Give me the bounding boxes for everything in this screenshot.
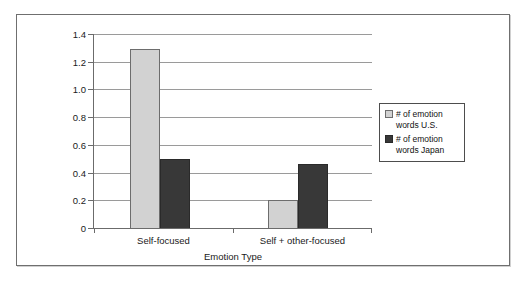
legend-label-us-line2: words U.S. (396, 120, 438, 130)
legend-item-japan: # of emotion words Japan (385, 134, 460, 155)
legend-label-japan: # of emotion words Japan (396, 134, 444, 155)
y-tick-1.4 (88, 34, 94, 35)
y-tick-label-0.8: 0.8 (46, 113, 86, 123)
x-axis-title: Emotion Type (94, 252, 372, 262)
plot-area (94, 34, 372, 228)
y-tick-0.4 (88, 173, 94, 174)
y-tick-label-1.0: 1.0 (46, 85, 86, 95)
bar-self-focused-us (130, 49, 160, 229)
chart-legend: # of emotion words U.S. # of emotion wor… (379, 103, 465, 162)
legend-item-us: # of emotion words U.S. (385, 109, 460, 130)
gridline-1.4 (94, 34, 372, 35)
y-tick-1.0 (88, 89, 94, 90)
legend-swatch-japan-icon (385, 135, 393, 143)
y-tick-0.6 (88, 145, 94, 146)
y-tick-label-1.4: 1.4 (46, 30, 86, 40)
y-tick-label-0: 0 (46, 224, 86, 234)
x-tick-end (371, 228, 372, 233)
bar-self-other-focused-us (268, 200, 298, 229)
y-tick-label-0.4: 0.4 (46, 169, 86, 179)
bar-self-focused-japan (160, 159, 190, 229)
legend-swatch-us-icon (385, 110, 393, 118)
y-tick-label-0.6: 0.6 (46, 141, 86, 151)
bar-self-other-focused-japan (298, 164, 328, 229)
x-tick-middle (233, 228, 234, 233)
y-tick-0.8 (88, 117, 94, 118)
y-tick-label-1.2: 1.2 (46, 58, 86, 68)
x-tick-start (94, 228, 95, 233)
y-axis-tick-labels: 1.4 1.2 1.0 0.8 0.6 0.4 0.2 0 (42, 0, 86, 284)
legend-label-us: # of emotion words U.S. (396, 109, 443, 130)
legend-label-japan-line1: # of emotion (396, 134, 443, 144)
legend-label-us-line1: # of emotion (396, 109, 443, 119)
category-label-self-focused: Self-focused (94, 236, 233, 246)
category-label-self-other-focused: Self + other-focused (233, 236, 372, 246)
y-tick-0.2 (88, 200, 94, 201)
y-tick-label-0.2: 0.2 (46, 196, 86, 206)
y-tick-1.2 (88, 62, 94, 63)
legend-label-japan-line2: words Japan (396, 145, 444, 155)
